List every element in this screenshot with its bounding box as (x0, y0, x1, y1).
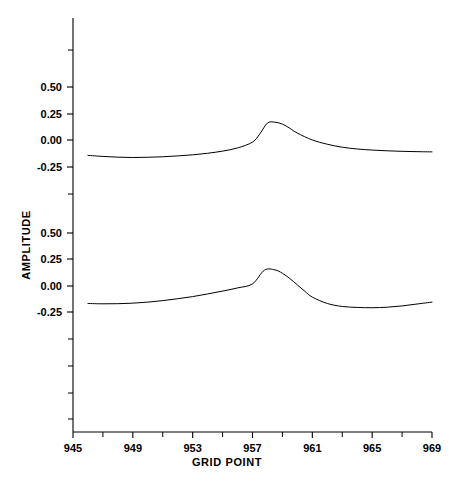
data-trace-upper (88, 122, 432, 158)
y-tick-label-upper-0: 0.50 (41, 81, 62, 93)
y-axis-ticks-lower (67, 233, 73, 419)
x-tick-label-4: 961 (303, 442, 321, 454)
data-trace-lower (88, 269, 432, 308)
x-tick-label-5: 965 (363, 442, 381, 454)
x-tick-label-0: 945 (64, 442, 82, 454)
y-tick-label-lower-0: 0.50 (41, 227, 62, 239)
y-tick-label-lower-2: 0.00 (41, 280, 62, 292)
x-tick-label-3: 957 (243, 442, 261, 454)
x-tick-label-6: 969 (423, 442, 441, 454)
x-axis-ticks (73, 432, 432, 438)
y-tick-label-lower-1: 0.25 (41, 253, 62, 265)
chart-figure: 0.50 0.25 0.00 -0.25 0.50 0.25 0.00 -0.2… (0, 0, 454, 490)
y-tick-label-upper-3: -0.25 (37, 161, 62, 173)
y-axis-ticks-upper (67, 50, 73, 194)
x-tick-label-1: 949 (124, 442, 142, 454)
y-tick-label-upper-2: 0.00 (41, 134, 62, 146)
x-axis-title: GRID POINT (192, 456, 262, 468)
x-axis-tick-labels: 945949953957961965969 (64, 442, 441, 454)
y-tick-label-lower-3: -0.25 (37, 306, 62, 318)
y-axis-title: AMPLITUDE (20, 210, 32, 280)
x-tick-label-2: 953 (183, 442, 201, 454)
y-tick-label-upper-1: 0.25 (41, 108, 62, 120)
line-chart-canvas: 0.50 0.25 0.00 -0.25 0.50 0.25 0.00 -0.2… (0, 0, 454, 490)
